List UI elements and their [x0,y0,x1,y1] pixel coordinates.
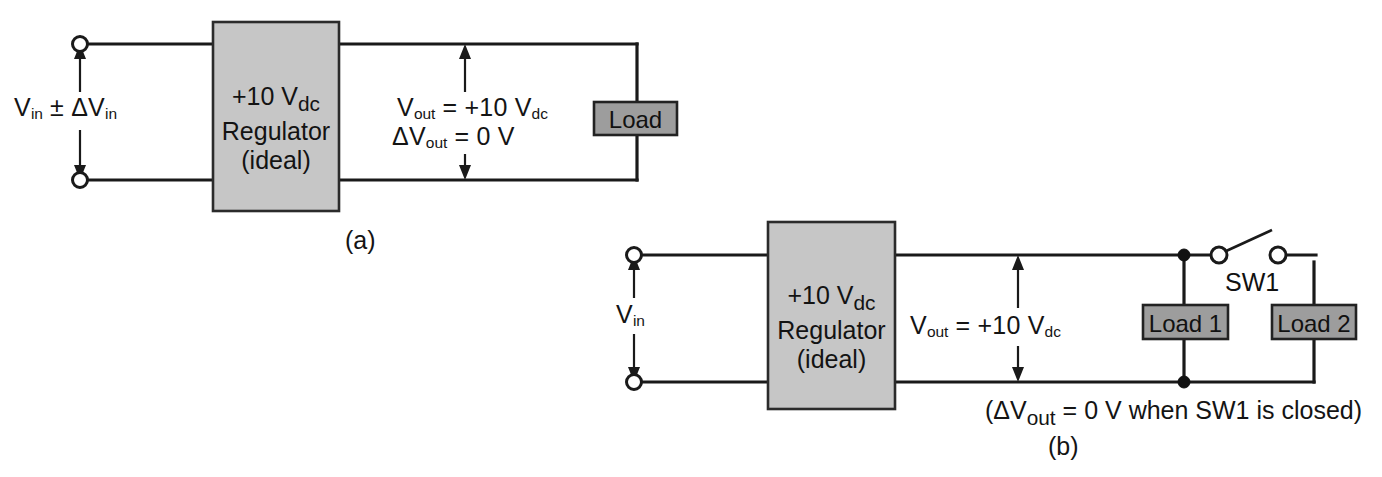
regulator-label-a-line2: Regulator [213,117,339,147]
regulator-label-a: +10 Vdc Regulator (ideal) [213,82,339,176]
dim-a-vout-arrow-up [459,44,471,59]
regulator-label-b-line1: +10 Vdc [768,281,895,316]
terminal-b-top[interactable] [627,248,642,263]
output-a-delta: ΔV [392,122,426,150]
note-b: (ΔVout = 0 V when SW1 is closed) [985,396,1362,430]
regulator-label-a-line3: (ideal) [213,146,339,176]
regulator-label-b-line2: Regulator [768,316,895,346]
regulator-b-volt: +10 V [787,281,853,309]
source-label-b-v: V [616,300,633,328]
source-label-a-sub: in [31,105,43,122]
load-label-a: Load [594,106,677,134]
load-label-b-1: Load 1 [1143,310,1228,338]
figure-caption-a: (a) [345,226,376,255]
figure-root: Vin ± ΔVin +10 Vdc Regulator (ideal) Vou… [0,0,1382,477]
dim-b-vout-arrow-up [1012,255,1024,270]
regulator-b-volt-sub: dc [854,291,876,314]
source-label-a-v: V [14,93,31,121]
source-label-b-sub: in [633,312,645,329]
output-a-v-sub: out [414,105,436,122]
regulator-a-volt-sub: dc [298,92,320,115]
output-b-v: V [910,311,927,339]
output-a-rest: = +10 V [435,93,531,121]
output-a-delta-sub: out [426,134,448,151]
source-label-b: Vin [616,300,645,328]
source-label-a: Vin ± ΔVin [14,93,117,121]
dim-b-vout-arrow-down [1012,367,1024,382]
output-label-a-line2: ΔVout = 0 V [392,122,515,150]
output-label-a-line1: Vout = +10 Vdc [397,93,548,121]
dim-a-vout-arrow-down [459,165,471,180]
switch-terminal-right-sw1[interactable] [1270,247,1286,263]
switch-label-sw1: SW1 [1225,268,1279,297]
source-label-a-delta-sub: in [105,105,117,122]
output-b-v-sub: out [927,323,949,340]
regulator-label-b: +10 Vdc Regulator (ideal) [768,281,895,375]
output-label-b: Vout = +10 Vdc [910,311,1061,339]
note-b-open: (ΔV [985,396,1027,424]
terminal-b-bottom[interactable] [627,375,642,390]
switch-blade-sw1[interactable] [1224,230,1272,252]
note-b-rest: = 0 V when SW1 is closed) [1056,396,1362,424]
source-label-a-delta: ΔV [71,93,105,121]
output-b-rest: = +10 V [948,311,1044,339]
junction-b-top [1178,249,1190,261]
figure-caption-b: (b) [1048,432,1079,461]
source-label-a-op: ± [43,93,71,121]
note-b-sub: out [1027,406,1056,429]
regulator-label-b-line3: (ideal) [768,345,895,375]
regulator-a-volt: +10 V [232,82,298,110]
load-label-b-2: Load 2 [1272,310,1356,338]
output-b-rest-sub: dc [1045,323,1061,340]
terminal-a-bottom[interactable] [73,173,88,188]
output-a-delta-rest: = 0 V [447,122,514,150]
junction-b-bottom [1178,376,1190,388]
output-a-rest-sub: dc [532,105,548,122]
output-a-v: V [397,93,414,121]
regulator-label-a-line1: +10 Vdc [213,82,339,117]
terminal-a-top[interactable] [73,37,88,52]
switch-terminal-left-sw1[interactable] [1211,247,1227,263]
